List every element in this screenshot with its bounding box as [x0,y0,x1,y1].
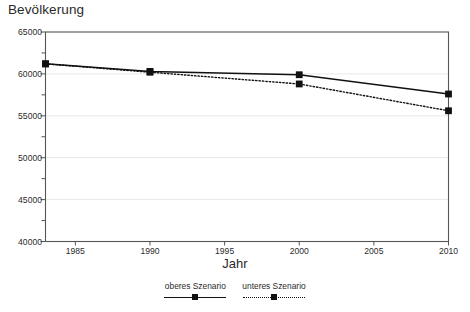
data-point-marker [296,81,303,88]
y-tick-label: 65000 [2,27,42,37]
axes-frame [46,32,449,242]
series-line-1 [46,64,449,111]
data-point-marker [147,69,154,76]
x-tick-label: 2000 [290,246,309,256]
x-tick-label: 1995 [215,246,234,256]
data-point-marker [42,60,49,67]
y-tick-label: 45000 [2,195,42,205]
legend-swatch [243,292,305,303]
y-axis-minor-ticks [42,53,46,221]
legend-label: unteres Szenario [242,281,305,291]
y-tick-label: 50000 [2,153,42,163]
legend-marker-icon [271,294,277,300]
legend-marker-icon [192,294,198,300]
x-axis-label: Jahr [0,256,470,271]
x-tick-label: 1990 [140,246,159,256]
y-tick-label: 60000 [2,69,42,79]
x-tick-label: 2005 [364,246,383,256]
data-point-marker [445,107,452,114]
y-tick-label: 55000 [2,111,42,121]
population-scenario-chart: Bevölkerung 4000045000500005500060000650… [0,0,470,312]
x-tick-label: 2010 [439,246,458,256]
y-tick-label: 40000 [2,237,42,247]
series-lines [46,64,449,111]
gridlines [46,74,449,200]
legend-entry-1[interactable]: unteres Szenario [242,281,305,303]
data-point-marker [296,71,303,78]
x-tick-label: 1985 [66,246,85,256]
plot-frame [46,32,449,242]
chart-legend: oberes Szenariounteres Szenario [0,281,470,303]
x-axis-major-ticks [75,242,448,246]
data-point-marker [445,91,452,98]
legend-label: oberes Szenario [165,281,226,291]
legend-entry-0[interactable]: oberes Szenario [164,281,226,303]
legend-swatch [164,292,226,303]
